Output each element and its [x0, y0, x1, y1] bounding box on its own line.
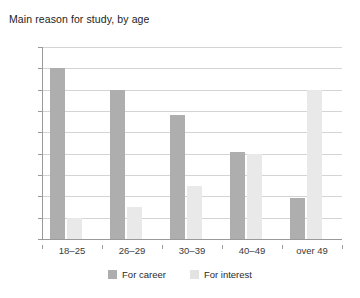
bar[interactable]	[230, 152, 245, 239]
y-tick-mark	[38, 239, 42, 240]
bar-group	[162, 47, 222, 239]
bar[interactable]	[127, 207, 142, 239]
bar[interactable]	[67, 218, 82, 239]
legend-label-career: For career	[122, 269, 166, 280]
chart-legend: For career For interest	[0, 269, 360, 280]
x-tick-label: over 49	[296, 245, 328, 256]
bar[interactable]	[110, 90, 125, 239]
x-tick-mark	[102, 245, 103, 249]
x-tick-mark	[342, 245, 343, 249]
legend-swatch-interest-icon	[190, 270, 199, 279]
bar[interactable]	[170, 115, 185, 239]
bar-chart: Main reason for study, by age 0102030405…	[0, 0, 360, 298]
x-tick-mark	[42, 245, 43, 249]
x-tick-label: 18–25	[59, 245, 85, 256]
bar[interactable]	[247, 154, 262, 239]
x-tick-mark	[162, 245, 163, 249]
bar[interactable]	[50, 68, 65, 239]
bar-group	[42, 47, 102, 239]
legend-item-career: For career	[108, 269, 166, 280]
chart-title: Main reason for study, by age	[9, 13, 149, 25]
legend-item-interest: For interest	[190, 269, 252, 280]
bar[interactable]	[307, 90, 322, 239]
x-tick-label: 26–29	[119, 245, 145, 256]
bar[interactable]	[290, 198, 305, 239]
bar[interactable]	[187, 186, 202, 239]
bar-group	[222, 47, 282, 239]
legend-swatch-career-icon	[108, 270, 117, 279]
plot-area: 0102030405060708090	[42, 47, 342, 239]
gridline	[42, 239, 342, 240]
bar-group	[102, 47, 162, 239]
x-tick-mark	[282, 245, 283, 249]
x-tick-mark	[222, 245, 223, 249]
x-axis-labels: 18–2526–2930–3940–49over 49	[42, 245, 342, 261]
bar-group	[282, 47, 342, 239]
bar-series-container	[42, 47, 342, 239]
x-tick-label: 30–39	[179, 245, 205, 256]
legend-label-interest: For interest	[204, 269, 252, 280]
x-tick-label: 40–49	[239, 245, 265, 256]
